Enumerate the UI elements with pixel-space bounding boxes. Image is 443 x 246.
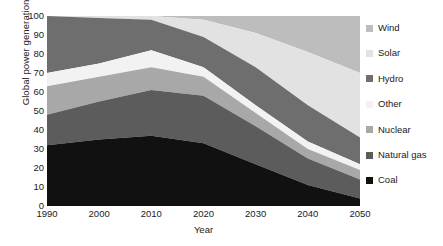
legend-label: Nuclear xyxy=(378,125,411,135)
x-axis-title: Year xyxy=(47,224,360,235)
x-tick-label: 2010 xyxy=(131,208,171,219)
legend-swatch-icon xyxy=(366,50,373,57)
y-tick-label: 70 xyxy=(18,68,44,78)
y-tick-label: 90 xyxy=(18,30,44,40)
legend-label: Wind xyxy=(378,23,400,33)
x-tick-label: 1990 xyxy=(27,208,67,219)
stacked-area-svg xyxy=(47,16,360,206)
legend-swatch-icon xyxy=(366,152,373,159)
y-tick-label: 100 xyxy=(18,11,44,21)
legend-item-solar[interactable]: Solar xyxy=(366,47,400,59)
x-tick-label: 2040 xyxy=(288,208,328,219)
x-tick-label: 2030 xyxy=(236,208,276,219)
y-tick-label: 20 xyxy=(18,163,44,173)
legend-label: Other xyxy=(378,99,402,109)
y-tick-label: 50 xyxy=(18,106,44,116)
x-tick-label: 2050 xyxy=(340,208,380,219)
legend-label: Coal xyxy=(378,175,398,185)
y-tick-label: 80 xyxy=(18,49,44,59)
legend-label: Hydro xyxy=(378,74,403,84)
legend-swatch-icon xyxy=(366,177,373,184)
legend-item-nuclear[interactable]: Nuclear xyxy=(366,124,411,136)
y-tick-label: 30 xyxy=(18,144,44,154)
legend-item-wind[interactable]: Wind xyxy=(366,22,400,34)
x-axis-tick-labels: 1990200020102020203020402050 xyxy=(0,208,443,224)
y-tick-label: 10 xyxy=(18,182,44,192)
plot-area xyxy=(47,16,360,206)
legend-item-natural-gas[interactable]: Natural gas xyxy=(366,149,427,161)
legend-item-other[interactable]: Other xyxy=(366,98,402,110)
legend-swatch-icon xyxy=(366,75,373,82)
y-tick-label: 60 xyxy=(18,87,44,97)
legend-swatch-icon xyxy=(366,101,373,108)
chart-legend: WindSolarHydroOtherNuclearNatural gasCoa… xyxy=(366,22,443,194)
x-tick-label: 2000 xyxy=(79,208,119,219)
legend-label: Solar xyxy=(378,48,400,58)
legend-swatch-icon xyxy=(366,126,373,133)
legend-item-hydro[interactable]: Hydro xyxy=(366,73,403,85)
y-tick-label: 40 xyxy=(18,125,44,135)
legend-label: Natural gas xyxy=(378,150,427,160)
legend-item-coal[interactable]: Coal xyxy=(366,174,398,186)
x-tick-label: 2020 xyxy=(184,208,224,219)
legend-swatch-icon xyxy=(366,25,373,32)
chart-container: Global power generation (%) 010203040506… xyxy=(0,0,443,246)
